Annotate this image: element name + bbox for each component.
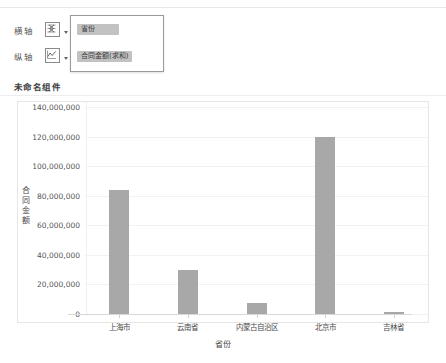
x-tick-mark [257, 315, 258, 318]
bar[interactable] [178, 270, 198, 314]
x-tick-mark [325, 315, 326, 318]
bar-series [0, 0, 446, 363]
x-tick-mark [119, 315, 120, 318]
bar[interactable] [109, 190, 129, 314]
x-tick-mark [188, 315, 189, 318]
x-axis-title: 省份 [0, 338, 446, 349]
x-tick-mark [394, 315, 395, 318]
x-category-label: 吉林省 [354, 321, 434, 332]
bar[interactable] [315, 137, 335, 314]
bar[interactable] [247, 303, 267, 314]
chart-builder-screen: 横轴 纵轴 省份 合同金额(求和) 未命名组件 020,000,00040,00… [0, 0, 446, 363]
